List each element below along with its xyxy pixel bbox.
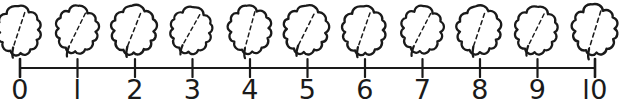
- leaf-icon: [0, 2, 48, 64]
- tick-label-8: 8: [471, 74, 489, 105]
- leaf-blade-outline: [0, 4, 43, 56]
- tick-label-0: 0: [11, 74, 29, 105]
- worksheet-canvas: 0l23456789l0: [0, 0, 642, 107]
- tick-label-7: 7: [414, 74, 432, 105]
- tick-label-2: 2: [126, 74, 144, 105]
- leaf-icon: [164, 2, 220, 64]
- leaf-icon: [337, 2, 393, 64]
- tick-label-1: l: [73, 74, 81, 105]
- leaf-icon: [279, 2, 335, 64]
- leaf-icon: [222, 2, 278, 64]
- leaf-icon: [107, 2, 163, 64]
- tick-label-4: 4: [241, 74, 259, 105]
- leaf-icon: [394, 2, 450, 64]
- tick-label-10: l0: [582, 74, 608, 105]
- tick-label-3: 3: [184, 74, 202, 105]
- leaf-icon: [567, 2, 623, 64]
- tick-label-9: 9: [529, 74, 547, 105]
- tick-label-row: 0l23456789l0: [0, 74, 642, 107]
- tick-label-6: 6: [356, 74, 374, 105]
- leaf-icon: [49, 2, 105, 64]
- tick-label-5: 5: [299, 74, 317, 105]
- leaf-icon: [509, 2, 565, 64]
- leaf-icon: [452, 2, 508, 64]
